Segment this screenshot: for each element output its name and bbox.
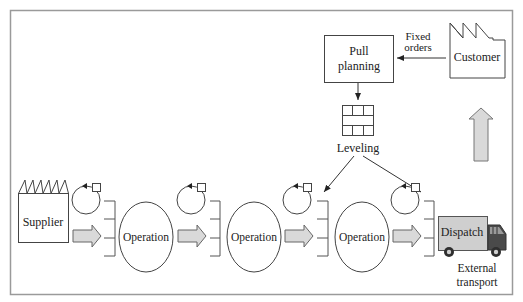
- material-flow-arrow-icon: [285, 225, 313, 247]
- kanban-loop-icon: [391, 183, 420, 214]
- material-flow-arrow-icon: [73, 225, 101, 247]
- operation-3-label: Operation: [339, 231, 385, 244]
- external-transport-line2: transport: [457, 276, 499, 289]
- pull-system-diagram: Customer Fixed orders Pull planning Leve…: [0, 0, 523, 302]
- supplier-label: Supplier: [23, 215, 64, 229]
- fixed-orders-line2: orders: [404, 41, 432, 53]
- supplier-factory-icon: [19, 180, 69, 243]
- material-flow-arrow-icon: [178, 225, 206, 247]
- buffer-bracket: [424, 201, 434, 256]
- dispatch-label: Dispatch: [441, 225, 484, 239]
- leveling-label: Leveling: [337, 141, 380, 155]
- operation-1-label: Operation: [123, 231, 169, 244]
- operation-2-label: Operation: [231, 231, 277, 244]
- external-transport-line1: External: [458, 262, 497, 274]
- leveling-box-icon: [343, 106, 374, 136]
- buffer-bracket: [210, 201, 220, 256]
- material-flow-arrow-icon: [393, 225, 421, 247]
- pull-planning-line2: planning: [338, 59, 380, 73]
- pull-planning-line1: Pull: [349, 44, 369, 58]
- buffer-bracket: [104, 201, 115, 256]
- kanban-loop-icon: [283, 183, 312, 214]
- upward-flow-arrow-icon: [469, 108, 493, 161]
- buffer-bracket: [317, 201, 328, 256]
- kanban-loop-icon: [72, 183, 101, 214]
- kanban-loop-icon: [177, 183, 206, 214]
- customer-label: Customer: [454, 50, 501, 64]
- leveling-arrow-left: [324, 156, 354, 192]
